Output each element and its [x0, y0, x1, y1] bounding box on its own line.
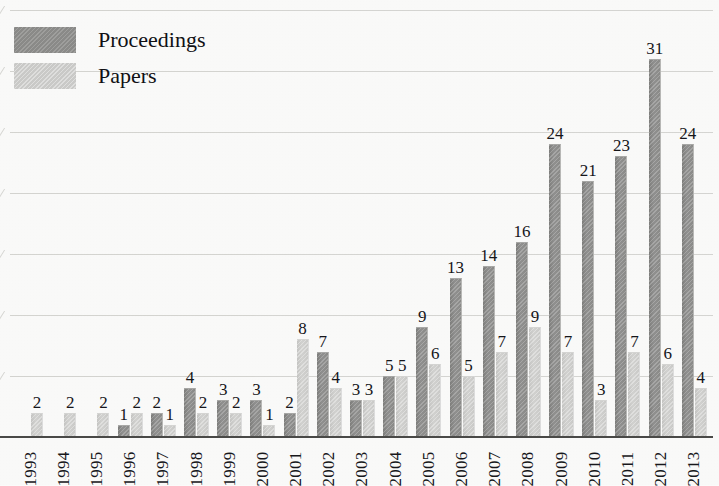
x-axis-tick-label: 1996: [120, 452, 140, 486]
bar-proceedings[interactable]: [284, 413, 296, 437]
bar-papers[interactable]: [562, 352, 574, 437]
bar-proceedings[interactable]: [649, 59, 661, 437]
x-axis-tick: 2012: [645, 440, 678, 485]
bar-group: 169: [512, 10, 545, 437]
bar-wrapper: 5: [396, 10, 408, 437]
bar-proceedings[interactable]: [416, 327, 428, 437]
bar-proceedings[interactable]: [250, 400, 262, 437]
bar-value-label: 6: [431, 345, 440, 362]
x-axis-tick: 2000: [246, 440, 279, 485]
bar-papers[interactable]: [97, 413, 109, 437]
x-axis-tick: 1993: [14, 440, 47, 485]
bar-value-label: 7: [319, 333, 328, 350]
bar-proceedings[interactable]: [483, 266, 495, 437]
bar-papers[interactable]: [396, 376, 408, 437]
bar-wrapper: 13: [450, 10, 462, 437]
bar-value-label: 3: [352, 381, 361, 398]
bar-papers[interactable]: [496, 352, 508, 437]
bar-wrapper: 21: [582, 10, 594, 437]
bar-papers[interactable]: [429, 364, 441, 437]
bar-wrapper: 2: [284, 10, 296, 437]
bar-papers[interactable]: [297, 339, 309, 437]
x-axis-tick: 1994: [47, 440, 80, 485]
bar-value-label: 1: [166, 406, 175, 423]
x-axis-tick-label: 2007: [485, 452, 505, 486]
bar-wrapper: 4: [695, 10, 707, 437]
bar-proceedings[interactable]: [450, 278, 462, 437]
x-axis-tick-label: 2003: [352, 452, 372, 486]
bar-papers[interactable]: [595, 400, 607, 437]
bar-wrapper: 9: [416, 10, 428, 437]
bar-value-label: 23: [613, 137, 630, 154]
bar-value-label: 1: [265, 406, 274, 423]
bar-proceedings[interactable]: [317, 352, 329, 437]
bar-proceedings[interactable]: [549, 144, 561, 437]
bar-proceedings[interactable]: [383, 376, 395, 437]
bar-proceedings[interactable]: [350, 400, 362, 437]
bar-value-label: 16: [513, 223, 530, 240]
x-axis-tick: 1996: [114, 440, 147, 485]
bar-group: 147: [479, 10, 512, 437]
bar-papers[interactable]: [695, 388, 707, 437]
bar-proceedings[interactable]: [516, 242, 528, 437]
x-axis-tick-label: 2000: [253, 452, 273, 486]
bar-papers[interactable]: [64, 413, 76, 437]
bar-value-label: 4: [697, 369, 706, 386]
x-axis-tick-label: 2005: [419, 452, 439, 486]
x-axis-tick: 2008: [512, 440, 545, 485]
bar-proceedings[interactable]: [682, 144, 694, 437]
bar-wrapper: 3: [217, 10, 229, 437]
bar-group: 55: [379, 10, 412, 437]
bar-group: 244: [678, 10, 711, 437]
x-axis-tick-label: 2012: [651, 452, 671, 486]
bar-wrapper: 3: [350, 10, 362, 437]
bar-group: 32: [213, 10, 246, 437]
bar-wrapper: 2: [230, 10, 242, 437]
legend-swatch-papers: [14, 63, 76, 89]
bar-value-label: 14: [480, 247, 497, 264]
bar-value-label: 2: [132, 394, 141, 411]
bar-group: 33: [346, 10, 379, 437]
bar-papers[interactable]: [363, 400, 375, 437]
bar-wrapper: 5: [463, 10, 475, 437]
bar-proceedings[interactable]: [217, 400, 229, 437]
bar-value-label: 8: [298, 320, 307, 337]
bar-proceedings[interactable]: [582, 181, 594, 437]
bar-papers[interactable]: [463, 376, 475, 437]
bar-value-label: 9: [531, 308, 540, 325]
x-axis-tick: 2003: [346, 440, 379, 485]
bar-proceedings[interactable]: [615, 156, 627, 437]
bar-wrapper: 16: [516, 10, 528, 437]
bar-value-label: 24: [679, 125, 696, 142]
bar-proceedings[interactable]: [151, 413, 163, 437]
bar-papers[interactable]: [131, 413, 143, 437]
bar-value-label: 2: [99, 394, 108, 411]
bar-wrapper: 7: [628, 10, 640, 437]
bar-group: 247: [545, 10, 578, 437]
bar-wrapper: 5: [383, 10, 395, 437]
bar-proceedings[interactable]: [184, 388, 196, 437]
bar-value-label: 3: [365, 381, 374, 398]
chart-legend: Proceedings Papers: [14, 22, 206, 94]
bar-group: 28: [280, 10, 313, 437]
legend-label-proceedings: Proceedings: [98, 27, 206, 53]
bar-papers[interactable]: [197, 413, 209, 437]
bar-value-label: 2: [232, 394, 241, 411]
bar-wrapper: 24: [549, 10, 561, 437]
bar-papers[interactable]: [662, 364, 674, 437]
bar-papers[interactable]: [230, 413, 242, 437]
bar-value-label: 31: [646, 40, 663, 57]
bar-papers[interactable]: [529, 327, 541, 437]
x-axis-tick-label: 2009: [552, 452, 572, 486]
bar-papers[interactable]: [628, 352, 640, 437]
x-axis-tick-label: 2001: [286, 452, 306, 486]
x-axis-tick-label: 2008: [518, 452, 538, 486]
bar-value-label: 1: [119, 406, 128, 423]
bar-wrapper: 3: [363, 10, 375, 437]
x-axis-tick-label: 2006: [452, 452, 472, 486]
bar-papers[interactable]: [330, 388, 342, 437]
bar-papers[interactable]: [31, 413, 43, 437]
bar-value-label: 4: [186, 369, 195, 386]
bar-wrapper: 6: [662, 10, 674, 437]
x-axis-tick: 2013: [678, 440, 711, 485]
